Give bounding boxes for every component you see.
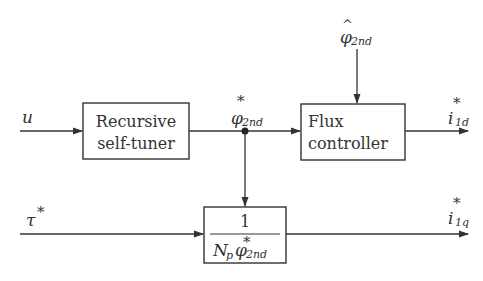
block-label-line1: Recursive [96, 112, 176, 131]
label-phi-hat-hat: ^ [342, 17, 353, 32]
label-phi-ref-sup: * [237, 92, 245, 110]
label-i1q-sup: * [453, 194, 461, 212]
signal-tau: τ * [20, 203, 203, 234]
signal-phi-ref: φ * 2nd [189, 92, 300, 206]
block-torque-gain: 1 N p φ * 2nd [204, 207, 286, 263]
signal-u: u [20, 107, 82, 131]
label-phi-ref-sub: 2nd [241, 116, 263, 129]
block-label-line2: self-tuner [97, 134, 175, 153]
denominator-base-sub: p [226, 249, 233, 262]
signal-i1d: i * 1d [405, 94, 469, 131]
block-recursive-self-tuner: Recursive self-tuner [83, 103, 189, 159]
label-tau-sup: * [37, 203, 45, 221]
block-label-line1: Flux [308, 112, 344, 131]
block-diagram: u Recursive self-tuner φ * 2nd φ ^ 2nd F… [0, 0, 483, 281]
denominator-sub: 2nd [245, 248, 267, 261]
label-tau-symbol: τ [26, 210, 36, 230]
block-label-line2: controller [308, 134, 388, 153]
fraction-numerator: 1 [240, 212, 250, 231]
label-i1d-sub: 1d [455, 116, 469, 129]
signal-phi-hat: φ ^ 2nd [340, 17, 372, 103]
label-i1q-sub: 1q [455, 216, 469, 229]
label-u: u [22, 107, 33, 127]
label-phi-hat-sub: 2nd [350, 35, 372, 48]
signal-i1q: i * 1q [286, 194, 469, 234]
block-flux-controller: Flux controller [301, 104, 405, 160]
label-i1d-sup: * [453, 94, 461, 112]
